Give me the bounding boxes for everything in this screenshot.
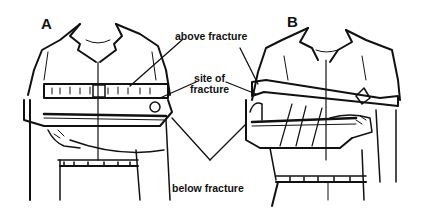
callout-above-fracture: above fracture (175, 31, 247, 42)
callout-below-fracture: below fracture (172, 183, 244, 194)
callout-site-of-fracture: site of fracture (190, 73, 229, 95)
figure-a (24, 24, 172, 200)
figure-b (246, 28, 400, 206)
fracture-binding-illustration: A B above fracture site of fracture belo… (0, 0, 422, 217)
leader-lines (130, 40, 258, 160)
panel-label-a: A (41, 15, 52, 32)
callout-site-line2: fracture (190, 84, 229, 95)
panel-label-b: B (287, 13, 298, 30)
